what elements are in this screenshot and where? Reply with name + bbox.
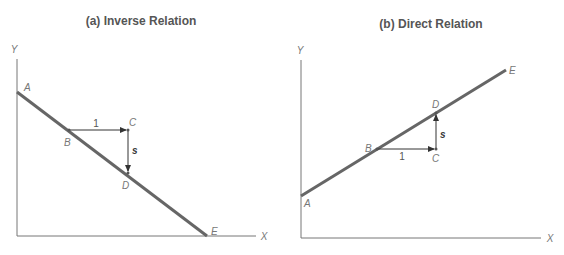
y-axis-label: Y [297, 45, 305, 56]
relation-line [17, 92, 207, 236]
point-c [435, 148, 438, 151]
run-label: 1 [93, 118, 99, 129]
x-axis-label: X [260, 231, 268, 242]
point-d [435, 112, 438, 115]
point-c [127, 129, 130, 132]
point-b [68, 129, 71, 132]
point-label-d: D [122, 180, 129, 191]
point-b [376, 148, 379, 151]
relation-line [301, 70, 506, 196]
point-label-a: A [23, 82, 31, 93]
run-label: 1 [399, 151, 405, 162]
point-d [127, 172, 130, 175]
point-label-e: E [509, 65, 516, 76]
slope-label: s [132, 145, 138, 156]
panel-inverse-relation: (a) Inverse Relation Y X A B C D E 1 s [11, 14, 268, 242]
diagram-canvas: (a) Inverse Relation Y X A B C D E 1 s (… [0, 0, 564, 255]
point-label-b: B [365, 143, 372, 154]
point-label-c: C [129, 117, 137, 128]
panel-title: (b) Direct Relation [379, 17, 482, 31]
x-axis-label: X [546, 233, 554, 244]
point-label-b: B [64, 137, 71, 148]
panel-direct-relation: (b) Direct Relation Y X A B C D E 1 s [297, 17, 554, 244]
point-label-c: C [432, 153, 440, 164]
panel-title: (a) Inverse Relation [86, 14, 197, 28]
y-axis-label: Y [11, 44, 19, 55]
slope-label: s [440, 129, 446, 140]
point-label-d: D [432, 99, 439, 110]
point-label-e: E [211, 226, 218, 237]
point-label-a: A [303, 198, 311, 209]
